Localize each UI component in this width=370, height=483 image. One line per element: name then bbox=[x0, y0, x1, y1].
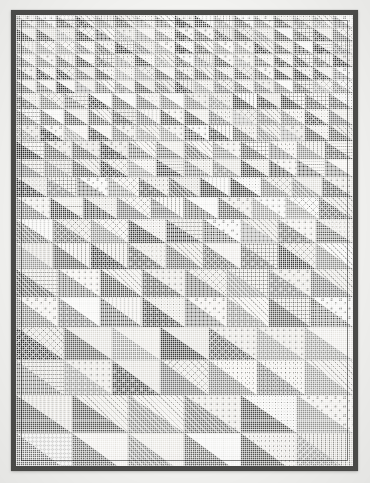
quilt-block bbox=[175, 41, 195, 54]
quilt-block bbox=[128, 433, 184, 466]
quilt-block bbox=[160, 327, 208, 360]
quilt-block bbox=[278, 243, 315, 269]
quilt-block bbox=[95, 28, 115, 41]
quilt-block bbox=[151, 197, 185, 219]
quilt-block bbox=[274, 28, 294, 41]
quilt-block bbox=[175, 28, 195, 41]
quilt-block bbox=[16, 93, 40, 109]
quilt-block bbox=[329, 109, 353, 125]
quilt-block bbox=[56, 28, 76, 41]
quilt-block bbox=[254, 67, 274, 80]
quilt-block bbox=[319, 197, 353, 219]
quilt-row bbox=[16, 269, 353, 297]
quilt-block bbox=[95, 54, 115, 67]
quilt-block bbox=[100, 141, 128, 159]
quilt-block bbox=[75, 67, 95, 80]
quilt-block bbox=[155, 54, 175, 67]
quilt-block bbox=[128, 141, 156, 159]
quilt-block bbox=[233, 93, 257, 109]
quilt-block bbox=[175, 54, 195, 67]
quilt-block bbox=[16, 109, 40, 125]
quilt-block bbox=[156, 159, 184, 177]
quilt-block bbox=[234, 41, 254, 54]
quilt-block bbox=[115, 67, 135, 80]
quilt-block bbox=[16, 327, 64, 360]
quilt-row bbox=[16, 109, 353, 125]
quilt-block bbox=[293, 28, 313, 41]
quilt-block bbox=[214, 28, 234, 41]
quilt-block bbox=[16, 159, 44, 177]
quilt-row bbox=[16, 41, 353, 54]
quilt-block bbox=[40, 93, 64, 109]
quilt-row bbox=[16, 15, 353, 28]
quilt-block bbox=[184, 159, 212, 177]
quilt-block bbox=[95, 80, 115, 93]
quilt-block bbox=[252, 197, 286, 219]
quilt-block bbox=[293, 54, 313, 67]
quilt-block bbox=[139, 177, 170, 197]
quilt-block bbox=[203, 219, 240, 243]
quilt-block bbox=[91, 219, 128, 243]
quilt-block bbox=[112, 93, 136, 109]
quilt-block bbox=[112, 125, 136, 141]
quilt-block bbox=[184, 197, 218, 219]
quilt-block bbox=[254, 15, 274, 28]
quilt-block bbox=[128, 159, 156, 177]
quilt-block bbox=[36, 80, 56, 93]
quilt-block bbox=[16, 141, 44, 159]
quilt-block bbox=[281, 109, 305, 125]
quilt-block bbox=[169, 177, 200, 197]
quilt-block bbox=[305, 360, 353, 395]
quilt-block bbox=[16, 197, 50, 219]
quilt-block bbox=[128, 219, 165, 243]
quilt-block bbox=[305, 109, 329, 125]
quilt-block bbox=[281, 93, 305, 109]
quilt-block bbox=[209, 93, 233, 109]
quilt-block bbox=[115, 15, 135, 28]
quilt-block bbox=[100, 159, 128, 177]
quilt-block bbox=[88, 109, 112, 125]
quilt-block bbox=[313, 15, 333, 28]
quilt-block bbox=[234, 54, 254, 67]
quilt-block bbox=[234, 67, 254, 80]
quilt-block bbox=[316, 243, 353, 269]
quilt-block bbox=[233, 109, 257, 125]
quilt-block bbox=[16, 360, 64, 395]
quilt-block bbox=[53, 219, 90, 243]
quilt-block bbox=[313, 67, 333, 80]
quilt-block bbox=[58, 269, 100, 297]
quilt-block bbox=[91, 243, 128, 269]
quilt-block bbox=[313, 54, 333, 67]
quilt-block bbox=[115, 54, 135, 67]
quilt-block bbox=[184, 433, 240, 466]
quilt-row bbox=[16, 243, 353, 269]
quilt-block bbox=[44, 141, 72, 159]
quilt-block bbox=[274, 41, 294, 54]
quilt-block bbox=[322, 177, 353, 197]
quilt-row bbox=[16, 125, 353, 141]
quilt-block bbox=[305, 93, 329, 109]
quilt-block bbox=[142, 269, 184, 297]
quilt-block bbox=[274, 54, 294, 67]
quilt-block bbox=[16, 395, 72, 433]
quilt-block bbox=[16, 177, 47, 197]
quilt-block bbox=[234, 80, 254, 93]
quilt-block bbox=[16, 15, 36, 28]
quilt-block bbox=[329, 93, 353, 109]
quilt-block bbox=[333, 67, 353, 80]
quilt-row bbox=[16, 141, 353, 159]
quilt-row bbox=[16, 360, 353, 395]
quilt-block bbox=[36, 67, 56, 80]
quilt-block bbox=[115, 80, 135, 93]
quilt-block bbox=[293, 80, 313, 93]
quilt-block bbox=[194, 54, 214, 67]
quilt-block bbox=[313, 28, 333, 41]
quilt-block bbox=[53, 243, 90, 269]
quilt-block bbox=[88, 93, 112, 109]
quilt-block bbox=[254, 80, 274, 93]
quilt-block bbox=[305, 327, 353, 360]
quilt-block bbox=[160, 93, 184, 109]
quilt-block bbox=[175, 67, 195, 80]
quilt-block bbox=[16, 243, 53, 269]
quilt-block bbox=[56, 41, 76, 54]
